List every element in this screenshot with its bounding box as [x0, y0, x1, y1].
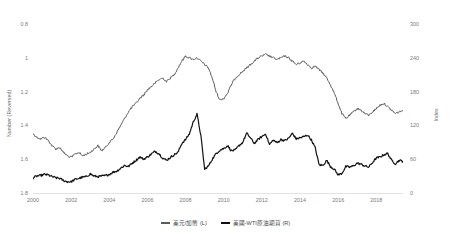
x-tick: 2000: [18, 197, 48, 203]
legend-label: 美國-WTI原油期貨 (R): [233, 219, 290, 227]
y-tick-right: 0: [410, 190, 432, 196]
y-axis-right-label: Index: [433, 95, 439, 135]
x-tick: 2002: [56, 197, 86, 203]
chart-container: Number (Reversed) Index 0.811.21.41.61.8…: [0, 0, 451, 245]
y-tick-left: 0.8: [6, 21, 28, 27]
x-tick: 2016: [323, 197, 353, 203]
series-line: [33, 54, 403, 158]
legend-swatch-icon: [161, 222, 170, 223]
y-tick-right: 180: [410, 89, 432, 95]
x-tick: 2006: [132, 197, 162, 203]
y-axis-left-label: Number (Reversed): [6, 93, 12, 137]
y-tick-left: 1.8: [6, 190, 28, 196]
series-line: [33, 113, 403, 182]
plot-area: [33, 24, 403, 193]
y-tick-left: 1: [6, 55, 28, 61]
x-tick: 2004: [94, 197, 124, 203]
legend-swatch-icon: [221, 222, 230, 223]
x-tick: 2012: [247, 197, 277, 203]
chart-legend: 美元/加幣 (L)美國-WTI原油期貨 (R): [0, 219, 451, 227]
y-tick-right: 300: [410, 21, 432, 27]
x-tick: 2014: [285, 197, 315, 203]
legend-label: 美元/加幣 (L): [173, 219, 207, 227]
legend-item[interactable]: 美國-WTI原油期貨 (R): [221, 219, 290, 227]
series-lines: [33, 24, 403, 193]
y-tick-right: 240: [410, 55, 432, 61]
x-axis-line: [33, 193, 403, 194]
x-tick: 2010: [209, 197, 239, 203]
y-tick-left: 1.4: [6, 122, 28, 128]
y-tick-right: 60: [410, 156, 432, 162]
x-tick: 2018: [361, 197, 391, 203]
y-tick-left: 1.6: [6, 156, 28, 162]
x-tick: 2008: [171, 197, 201, 203]
y-tick-left: 1.2: [6, 89, 28, 95]
y-tick-right: 120: [410, 122, 432, 128]
legend-item[interactable]: 美元/加幣 (L): [161, 219, 207, 227]
